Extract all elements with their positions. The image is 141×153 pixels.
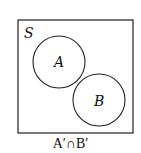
caption: A′∩B′: [0, 136, 141, 152]
universe-rectangle: [18, 20, 133, 133]
universe-label: S: [24, 25, 34, 41]
venn-diagram: S A B: [0, 0, 141, 153]
set-b-label: B: [93, 93, 104, 109]
set-a-label: A: [52, 54, 64, 70]
